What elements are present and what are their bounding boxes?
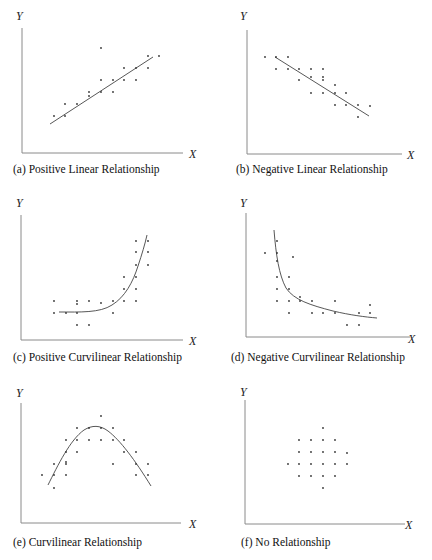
data-point (334, 92, 336, 94)
x-axis-label: X (404, 518, 413, 532)
data-point (88, 95, 90, 97)
data-point (322, 451, 324, 453)
data-point (310, 475, 312, 477)
data-point (100, 79, 102, 81)
data-point (88, 427, 90, 429)
data-point (357, 104, 359, 106)
data-point (346, 463, 348, 465)
data-point (334, 84, 336, 86)
data-point (76, 427, 78, 429)
data-point (135, 264, 137, 266)
data-point (358, 312, 360, 314)
panel-f: YX(f) No Relationship (240, 385, 413, 549)
data-point (100, 91, 102, 93)
panel-a: YX(a) Positive Linear Relationship (13, 9, 197, 176)
data-point (100, 302, 102, 304)
fit-line (50, 57, 153, 124)
data-point (322, 439, 324, 441)
data-point (322, 76, 324, 78)
data-point (112, 439, 114, 441)
data-point (275, 56, 277, 58)
data-point (88, 324, 90, 326)
data-point (358, 324, 360, 326)
data-point (135, 288, 137, 290)
data-point (345, 92, 347, 94)
data-point (147, 251, 149, 253)
data-point (76, 439, 78, 441)
data-point (123, 300, 125, 302)
data-points (264, 56, 371, 118)
data-point (334, 439, 336, 441)
axes (22, 28, 183, 153)
data-point (76, 451, 78, 453)
y-axis-label: Y (16, 386, 24, 400)
data-point (298, 451, 300, 453)
data-point (310, 439, 312, 441)
data-point (264, 56, 266, 58)
data-point (100, 427, 102, 429)
data-point (53, 487, 55, 489)
data-point (287, 68, 289, 70)
data-point (65, 463, 67, 465)
y-axis-label: Y (16, 9, 24, 23)
data-point (64, 103, 66, 105)
axes (21, 215, 183, 340)
data-point (88, 439, 90, 441)
data-point (135, 276, 137, 278)
panel-caption: (a) Positive Linear Relationship (13, 163, 160, 176)
data-point (53, 463, 55, 465)
data-point (334, 312, 336, 314)
x-axis-label: X (188, 334, 197, 348)
panel-b: YX(b) Negative Linear Relationship (236, 9, 415, 176)
data-point (310, 68, 312, 70)
data-point (334, 104, 336, 106)
data-point (53, 115, 55, 117)
data-point (322, 92, 324, 94)
data-point (76, 324, 78, 326)
fit-curve (59, 235, 147, 312)
data-point (299, 296, 301, 298)
data-point (64, 115, 66, 117)
data-point (310, 463, 312, 465)
fit-curve (48, 426, 151, 486)
x-axis-label: X (406, 148, 415, 162)
panel-caption: (f) No Relationship (241, 536, 331, 549)
data-point (311, 312, 313, 314)
axes (247, 30, 402, 154)
x-axis-label: X (407, 332, 416, 346)
data-point (112, 312, 114, 314)
data-point (369, 304, 371, 306)
y-axis-label: Y (240, 385, 248, 399)
data-point (276, 288, 278, 290)
data-point (310, 92, 312, 94)
data-point (65, 451, 67, 453)
data-point (264, 252, 266, 254)
data-point (123, 79, 125, 81)
data-point (135, 251, 137, 253)
data-point (147, 67, 149, 69)
data-point (112, 427, 114, 429)
data-point (65, 312, 67, 314)
data-point (147, 474, 149, 476)
data-point (346, 324, 348, 326)
data-point (123, 276, 125, 278)
data-point (334, 463, 336, 465)
data-point (357, 116, 359, 118)
data-point (100, 415, 102, 417)
scatter-figure: YX(a) Positive Linear RelationshipYX(b) … (0, 0, 432, 560)
data-point (76, 300, 78, 302)
data-point (53, 474, 55, 476)
data-point (276, 276, 278, 278)
data-point (322, 79, 324, 81)
data-point (135, 300, 137, 302)
data-point (76, 103, 78, 105)
data-point (100, 439, 102, 441)
data-point (65, 439, 67, 441)
data-point (369, 105, 371, 107)
data-point (276, 260, 278, 262)
data-point (298, 439, 300, 441)
data-point (334, 475, 336, 477)
fit-curve (274, 230, 377, 318)
data-point (147, 264, 149, 266)
panel-c: YX(c) Positive Curvilinear Relationship (13, 196, 197, 364)
